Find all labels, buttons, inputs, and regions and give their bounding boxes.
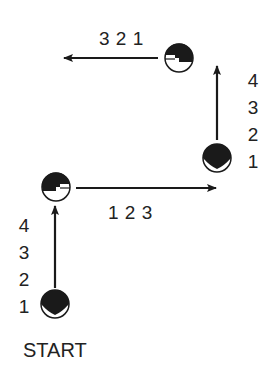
leg-3-count-3: 3 bbox=[245, 94, 261, 121]
turn-1-figure-icon bbox=[42, 172, 70, 201]
leg-1-count-1: 1 bbox=[16, 293, 32, 320]
leg-1-count-4: 4 bbox=[16, 212, 32, 239]
leg-1-count-3: 3 bbox=[16, 239, 32, 266]
start-figure-icon bbox=[41, 290, 69, 318]
leg-1-count-2: 2 bbox=[16, 266, 32, 293]
start-label: START bbox=[23, 341, 87, 360]
leg-3-count-4: 4 bbox=[245, 67, 261, 94]
turn-3-figure-icon bbox=[165, 43, 193, 72]
leg-3-count-1: 1 bbox=[245, 148, 261, 175]
leg-3-counts: 4 3 2 1 bbox=[245, 67, 261, 175]
turn-2-figure-icon bbox=[203, 144, 231, 172]
diagram-canvas bbox=[0, 0, 277, 378]
leg-2-counts: 1 2 3 bbox=[108, 203, 152, 222]
leg-1-counts: 4 3 2 1 bbox=[16, 212, 32, 320]
leg-3-count-2: 2 bbox=[245, 121, 261, 148]
leg-4-counts: 3 2 1 bbox=[99, 29, 143, 48]
